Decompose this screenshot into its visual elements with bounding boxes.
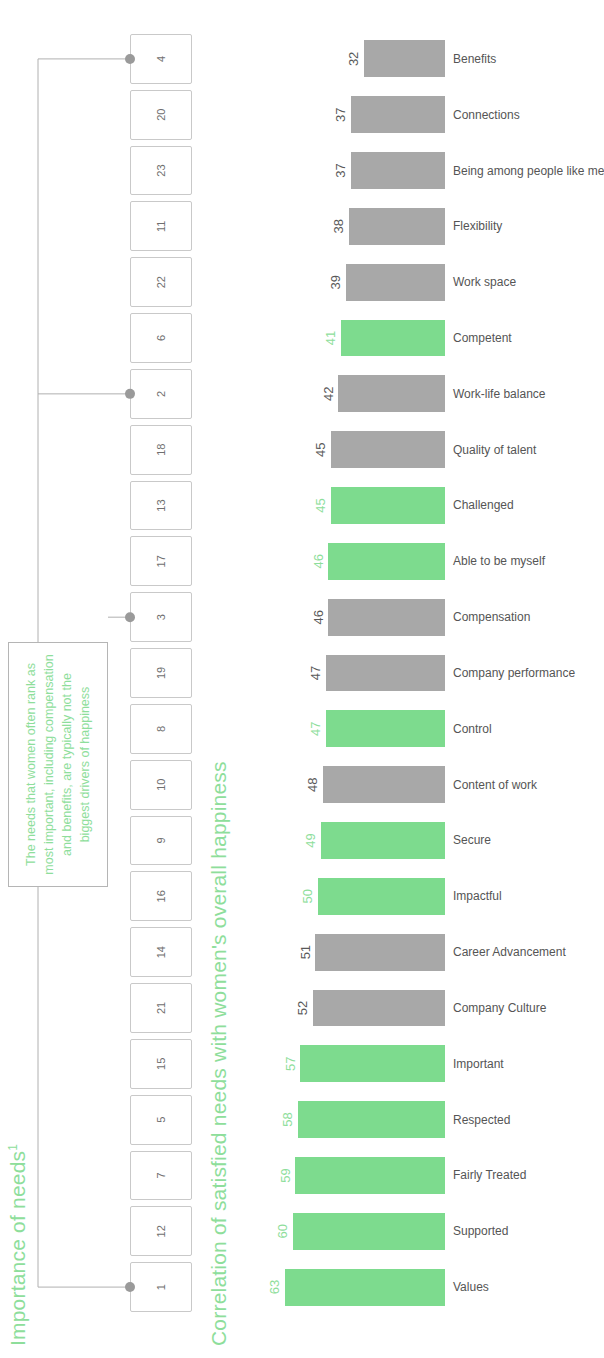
bar-value-label: 60 [276, 1224, 290, 1238]
bar-column: 60 [249, 1206, 445, 1256]
bar [300, 1045, 445, 1082]
category-label: Compensation [453, 610, 530, 624]
category-label: Values [453, 1280, 489, 1294]
connector-marker [125, 1282, 135, 1292]
bar-column: 38 [249, 201, 445, 251]
bar-value-label: 37 [334, 107, 348, 121]
category-label-slot: Respected [451, 1095, 531, 1145]
bar-column: 37 [249, 90, 445, 140]
bar-column: 42 [249, 369, 445, 419]
bar-column: 46 [249, 592, 445, 642]
bar-column: 39 [249, 257, 445, 307]
bar [364, 40, 445, 77]
category-label-slot: Connections [451, 90, 531, 140]
category-label: Flexibility [453, 219, 502, 233]
bar [315, 934, 445, 971]
bar-column: 58 [249, 1095, 445, 1145]
category-label-slot: Challenged [451, 481, 531, 531]
bar-value-label: 59 [279, 1168, 293, 1182]
bar-value-label: 42 [322, 387, 336, 401]
bar-column: 59 [249, 1151, 445, 1201]
category-label-slot: Supported [451, 1206, 531, 1256]
bar [323, 766, 445, 803]
bar [293, 1213, 445, 1250]
category-label-slot: Compensation [451, 592, 531, 642]
category-label: Challenged [453, 499, 514, 513]
category-label-slot: Company Culture [451, 983, 531, 1033]
bar [338, 375, 445, 412]
bar-value-label: 50 [301, 889, 315, 903]
category-label-slot: Company performance [451, 648, 531, 698]
bar-value-label: 38 [332, 219, 346, 233]
bar-column: 37 [249, 146, 445, 196]
connector-marker [125, 389, 135, 399]
category-label: Being among people like me [453, 164, 604, 178]
bar-column: 52 [249, 983, 445, 1033]
connector-marker [125, 612, 135, 622]
category-label-slot: Work-life balance [451, 369, 531, 419]
category-label-slot: Quality of talent [451, 425, 531, 475]
bar-column: 51 [249, 927, 445, 977]
category-label-slot: Important [451, 1039, 531, 1089]
category-label: Work space [453, 275, 516, 289]
category-label-slot: Secure [451, 816, 531, 866]
bar-column: 49 [249, 816, 445, 866]
bar-value-label: 46 [312, 610, 326, 624]
bar-value-label: 49 [304, 833, 318, 847]
category-label: Impactful [453, 889, 502, 903]
category-label-slot: Being among people like me [451, 146, 531, 196]
bar [326, 655, 445, 692]
category-label-slot: Content of work [451, 760, 531, 810]
category-label: Company Culture [453, 1001, 546, 1015]
bar [285, 1269, 445, 1306]
category-label: Supported [453, 1224, 508, 1238]
bar-column: 63 [249, 1262, 445, 1312]
category-label-slot: Able to be myself [451, 536, 531, 586]
category-label: Career Advancement [453, 945, 566, 959]
bar [341, 320, 445, 357]
bar-column: 46 [249, 536, 445, 586]
category-label: Work-life balance [453, 387, 545, 401]
category-label: Fairly Treated [453, 1168, 526, 1182]
category-label: Competent [453, 331, 512, 345]
bar-value-label: 39 [329, 275, 343, 289]
callout-text: The needs that women often rank as most … [22, 653, 95, 876]
category-label-slot: Work space [451, 257, 531, 307]
bar [313, 990, 445, 1027]
category-label: Quality of talent [453, 443, 536, 457]
bar [351, 152, 445, 189]
bar-column: 41 [249, 313, 445, 363]
bar-value-label: 48 [306, 777, 320, 791]
bar-column: 48 [249, 760, 445, 810]
bar-value-label: 52 [296, 1001, 310, 1015]
bar-value-label: 47 [309, 722, 323, 736]
category-axis-labels: ValuesSupportedFairly TreatedRespectedIm… [451, 34, 531, 1312]
category-label: Important [453, 1057, 504, 1071]
bar-value-label: 41 [324, 331, 338, 345]
category-label: Connections [453, 108, 520, 122]
category-label: Respected [453, 1113, 510, 1127]
category-label: Control [453, 722, 492, 736]
bar-value-label: 45 [314, 442, 328, 456]
bar [331, 487, 445, 524]
bar-column: 50 [249, 871, 445, 921]
bar-value-label: 47 [309, 666, 323, 680]
category-label: Content of work [453, 778, 537, 792]
bar [298, 1101, 445, 1138]
category-label: Benefits [453, 52, 496, 66]
bar [349, 208, 446, 245]
category-label-slot: Values [451, 1262, 531, 1312]
bar-value-label: 45 [314, 498, 328, 512]
bar [328, 543, 445, 580]
bar [326, 710, 445, 747]
category-label-slot: Career Advancement [451, 927, 531, 977]
bar [351, 96, 445, 133]
connector-marker [125, 54, 135, 64]
category-label: Secure [453, 833, 491, 847]
bar-column: 47 [249, 648, 445, 698]
bar-column: 57 [249, 1039, 445, 1089]
category-label-slot: Benefits [451, 34, 531, 84]
category-label-slot: Flexibility [451, 201, 531, 251]
